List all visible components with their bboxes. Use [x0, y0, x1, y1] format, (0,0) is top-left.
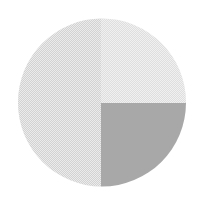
quadrant-circle-diagram	[0, 0, 203, 203]
diagram-canvas	[0, 0, 203, 203]
